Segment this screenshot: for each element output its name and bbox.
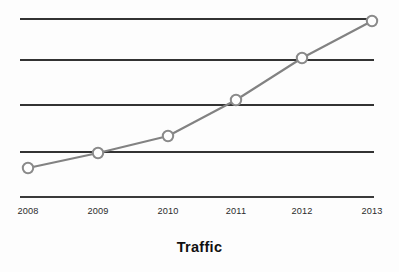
x-tick-label-2008: 2008 <box>17 206 38 216</box>
gridlines-group <box>20 19 374 197</box>
data-point-2010[interactable] <box>163 131 173 141</box>
x-tick-label-2011: 2011 <box>226 206 247 216</box>
data-point-2012[interactable] <box>297 53 307 63</box>
x-tick-label-2013: 2013 <box>361 206 382 216</box>
data-point-2011[interactable] <box>231 95 241 105</box>
line-chart-plot: 2008 2009 2010 2011 2012 2013 <box>0 0 399 272</box>
traffic-line-path <box>28 21 372 168</box>
x-tick-label-2009: 2009 <box>87 206 108 216</box>
data-point-2013[interactable] <box>367 16 377 26</box>
x-tick-label-2012: 2012 <box>291 206 312 216</box>
x-tick-label-2010: 2010 <box>157 206 178 216</box>
chart-title: Traffic <box>0 239 399 255</box>
x-axis-tick-labels: 2008 2009 2010 2011 2012 2013 <box>17 206 382 216</box>
data-point-2008[interactable] <box>23 163 33 173</box>
data-point-2009[interactable] <box>93 148 103 158</box>
data-series-traffic <box>23 16 377 173</box>
chart-container: 2008 2009 2010 2011 2012 2013 Traffic <box>0 0 399 272</box>
